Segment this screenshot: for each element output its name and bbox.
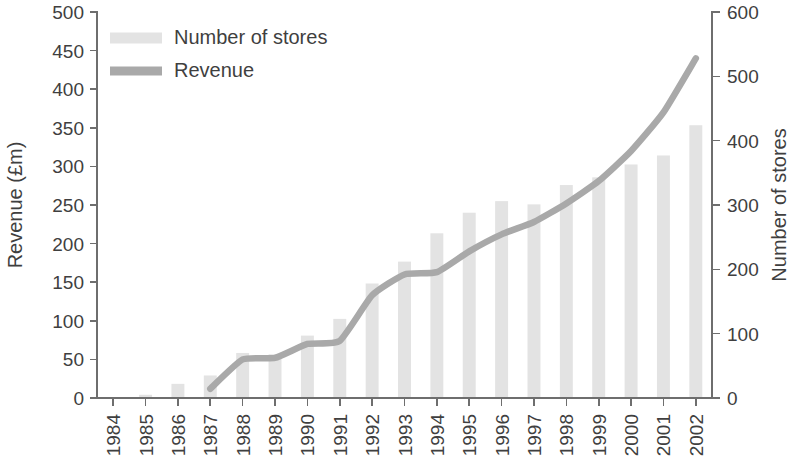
left-tick-label-0: 0 (73, 388, 84, 409)
x-tick-label-1990: 1990 (297, 414, 318, 456)
left-tick-label-350: 350 (52, 118, 84, 139)
bar-1997 (528, 204, 541, 398)
left-tick-label-150: 150 (52, 272, 84, 293)
line-series-revenue (210, 58, 696, 388)
legend-label-number-of-stores: Number of stores (174, 26, 327, 48)
right-tick-label-300: 300 (727, 195, 759, 216)
x-tick-label-1984: 1984 (103, 414, 124, 457)
right-tick-label-0: 0 (727, 388, 738, 409)
left-tick-label-50: 50 (63, 349, 84, 370)
left-tick-label-400: 400 (52, 79, 84, 100)
bar-2001 (657, 155, 670, 398)
right-tick-label-400: 400 (727, 131, 759, 152)
x-tick-label-1985: 1985 (136, 414, 157, 456)
x-tick-label-2000: 2000 (621, 414, 642, 456)
x-tick-label-1989: 1989 (265, 414, 286, 456)
x-tick-label-1994: 1994 (427, 414, 448, 457)
right-tick-label-100: 100 (727, 324, 759, 345)
bar-1994 (430, 233, 443, 398)
right-tick-label-600: 600 (727, 2, 759, 23)
x-tick-label-2002: 2002 (686, 414, 707, 456)
bar-2000 (625, 164, 638, 398)
x-tick-label-1991: 1991 (330, 414, 351, 456)
right-tick-label-200: 200 (727, 259, 759, 280)
bar-1993 (398, 262, 411, 398)
left-tick-label-300: 300 (52, 156, 84, 177)
legend-swatch-revenue (110, 67, 162, 76)
x-tick-label-1995: 1995 (459, 414, 480, 456)
left-tick-label-100: 100 (52, 311, 84, 332)
bar-1999 (592, 177, 605, 398)
legend-swatch-number-of-stores (110, 33, 162, 44)
bar-2002 (689, 125, 702, 398)
x-tick-label-1999: 1999 (589, 414, 610, 456)
x-tick-label-1988: 1988 (233, 414, 254, 456)
dual-axis-chart: 5004504003503002502001501005006005004003… (0, 0, 802, 458)
x-tick-label-1992: 1992 (362, 414, 383, 456)
x-tick-label-1996: 1996 (492, 414, 513, 456)
chart-legend: Number of storesRevenue (110, 26, 327, 81)
chart-container: 5004504003503002502001501005006005004003… (0, 0, 802, 458)
legend-label-revenue: Revenue (174, 59, 254, 81)
right-tick-label-500: 500 (727, 66, 759, 87)
x-tick-label-1987: 1987 (200, 414, 221, 456)
x-tick-label-1993: 1993 (395, 414, 416, 456)
left-tick-label-450: 450 (52, 41, 84, 62)
left-axis-title: Revenue (£m) (4, 142, 26, 269)
bar-1986 (171, 384, 184, 398)
bar-1998 (560, 185, 573, 398)
left-tick-label-250: 250 (52, 195, 84, 216)
right-axis-title: Number of stores (768, 128, 790, 281)
left-tick-label-500: 500 (52, 2, 84, 23)
left-tick-label-200: 200 (52, 234, 84, 255)
x-tick-label-2001: 2001 (653, 414, 674, 456)
x-tick-label-1986: 1986 (168, 414, 189, 456)
x-tick-label-1997: 1997 (524, 414, 545, 456)
x-tick-label-1998: 1998 (556, 414, 577, 456)
bar-1995 (463, 213, 476, 398)
